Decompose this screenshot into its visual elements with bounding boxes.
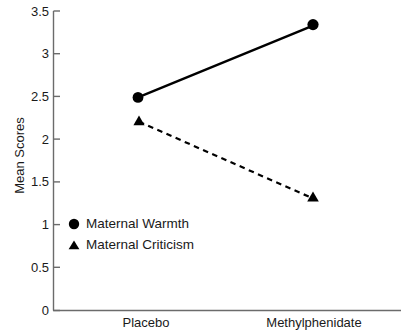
y-tick-label-1: 1: [0, 218, 49, 231]
series-line-maternal-criticism: [139, 122, 311, 198]
y-axis-label: Mean Scores: [12, 106, 27, 206]
line-chart: 3.5 3 2.5 2 1.5 1 0.5 0 Mean Scores Plac…: [0, 0, 407, 336]
data-point-warmth-methylphenidate: [307, 19, 318, 30]
y-tick-label-3p5: 3.5: [0, 5, 49, 18]
legend-label-maternal-warmth: Maternal Warmth: [86, 217, 189, 231]
y-tick-label-2p5: 2.5: [0, 90, 49, 103]
y-tick-label-0p5: 0.5: [0, 261, 49, 274]
legend-triangle-marker-icon: [69, 240, 80, 249]
data-point-criticism-placebo: [133, 116, 144, 126]
plot-area: [0, 0, 407, 336]
data-point-criticism-methylphenidate: [307, 192, 319, 202]
legend-label-maternal-criticism: Maternal Criticism: [86, 238, 194, 252]
x-tick-label-methylphenidate: Methylphenidate: [253, 316, 375, 330]
y-axis-ticks: [54, 11, 61, 311]
y-tick-label-0: 0: [0, 304, 49, 317]
series-line-maternal-warmth: [138, 26, 313, 98]
y-tick-label-3: 3: [0, 47, 49, 60]
legend-circle-marker-icon: [69, 219, 79, 229]
data-point-warmth-placebo: [133, 92, 144, 103]
x-tick-label-placebo: Placebo: [91, 316, 201, 330]
